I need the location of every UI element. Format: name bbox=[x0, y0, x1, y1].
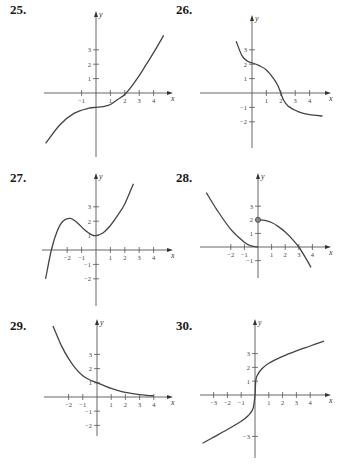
y-tick-label: 3 bbox=[250, 203, 253, 210]
y-axis-label: y bbox=[98, 10, 103, 19]
y-tick-label: 1 bbox=[244, 75, 247, 82]
y-tick-label: −3 bbox=[243, 433, 250, 440]
y-tick-label: −1 bbox=[85, 408, 92, 415]
graph-sheet: 25.xy−1123412326.xy1234−2−112327.xy−2−11… bbox=[0, 0, 344, 473]
y-arrow-icon bbox=[95, 319, 99, 325]
y-arrow-icon bbox=[94, 173, 98, 179]
x-axis-label: x bbox=[170, 94, 175, 103]
x-tick-label: 1 bbox=[109, 97, 112, 104]
x-tick-label: 3 bbox=[138, 401, 141, 408]
problem-number-27: 27. bbox=[10, 170, 26, 185]
y-axis-label: y bbox=[254, 14, 259, 23]
function-curve bbox=[46, 35, 164, 143]
x-tick-label: 3 bbox=[297, 251, 300, 258]
y-tick-label: 2 bbox=[247, 364, 250, 371]
x-tick-label: 2 bbox=[123, 254, 126, 261]
y-tick-label: 2 bbox=[244, 61, 247, 68]
y-tick-label: −1 bbox=[246, 257, 253, 264]
graph-30: 30.xy−3−2−11234−3123 bbox=[176, 318, 333, 458]
x-tick-label: −1 bbox=[238, 399, 245, 406]
y-tick-label: −1 bbox=[240, 104, 247, 111]
point-marker bbox=[255, 217, 260, 222]
x-tick-label: −2 bbox=[224, 399, 231, 406]
x-tick-label: 4 bbox=[152, 401, 156, 408]
x-axis-label: x bbox=[328, 396, 333, 405]
graph-25: 25.xy−11234123 bbox=[10, 2, 175, 157]
x-axis-label: x bbox=[328, 248, 333, 257]
x-tick-label: 3 bbox=[294, 97, 297, 104]
y-axis-label: y bbox=[260, 172, 265, 181]
y-arrow-icon bbox=[94, 11, 98, 17]
x-axis-label: x bbox=[328, 94, 333, 103]
problem-number-30: 30. bbox=[176, 318, 192, 333]
x-tick-label: 4 bbox=[311, 251, 315, 258]
x-tick-label: 1 bbox=[109, 254, 112, 261]
x-tick-label: 1 bbox=[265, 97, 268, 104]
x-tick-label: 2 bbox=[123, 97, 126, 104]
graph-26: 26.xy1234−2−1123 bbox=[176, 2, 333, 148]
y-tick-label: 1 bbox=[88, 75, 91, 82]
x-tick-label: 1 bbox=[270, 251, 273, 258]
x-tick-label: 3 bbox=[138, 97, 141, 104]
graph-28: 28.xy−2−11234−1123 bbox=[176, 170, 333, 278]
y-tick-label: −2 bbox=[84, 275, 91, 282]
x-tick-label: 2 bbox=[279, 97, 282, 104]
problem-number-28: 28. bbox=[176, 170, 192, 185]
x-tick-label: 2 bbox=[281, 399, 284, 406]
problem-number-26: 26. bbox=[176, 2, 192, 17]
x-tick-label: 3 bbox=[295, 399, 298, 406]
graph-27: 27.xy−2−11234−2−1123 bbox=[10, 170, 175, 306]
function-curve bbox=[203, 341, 324, 443]
x-tick-label: 4 bbox=[152, 97, 156, 104]
x-tick-label: 4 bbox=[309, 399, 313, 406]
y-tick-label: 3 bbox=[244, 46, 247, 53]
problem-number-25: 25. bbox=[10, 2, 26, 17]
y-tick-label: 3 bbox=[88, 46, 91, 53]
y-tick-label: 2 bbox=[88, 61, 91, 68]
y-tick-label: 1 bbox=[247, 378, 250, 385]
y-tick-label: 1 bbox=[250, 230, 253, 237]
y-arrow-icon bbox=[250, 15, 254, 21]
graph-29: 29.xy−2−11234−2−1123 bbox=[10, 318, 175, 436]
function-curve bbox=[53, 326, 154, 396]
x-tick-label: −2 bbox=[227, 251, 234, 258]
x-tick-label: 4 bbox=[308, 97, 312, 104]
x-tick-label: −2 bbox=[64, 254, 71, 261]
problem-number-29: 29. bbox=[10, 318, 26, 333]
x-tick-label: −3 bbox=[210, 399, 217, 406]
x-axis-label: x bbox=[170, 398, 175, 407]
y-tick-label: −2 bbox=[240, 118, 247, 125]
y-tick-label: −1 bbox=[84, 261, 91, 268]
x-tick-label: 3 bbox=[138, 254, 141, 261]
x-tick-label: 1 bbox=[110, 401, 113, 408]
x-tick-label: 1 bbox=[267, 399, 270, 406]
x-tick-label: −1 bbox=[78, 97, 85, 104]
y-axis-label: y bbox=[99, 318, 104, 327]
function-curve bbox=[258, 220, 311, 268]
y-arrow-icon bbox=[256, 173, 260, 179]
x-tick-label: 2 bbox=[124, 401, 127, 408]
x-axis-label: x bbox=[170, 251, 175, 260]
y-axis-label: y bbox=[98, 172, 103, 181]
x-tick-label: 2 bbox=[284, 251, 287, 258]
x-tick-label: 4 bbox=[152, 254, 156, 261]
y-arrow-icon bbox=[253, 319, 257, 325]
y-tick-label: 3 bbox=[88, 203, 91, 210]
y-tick-label: 2 bbox=[250, 216, 253, 223]
y-tick-label: 2 bbox=[88, 218, 91, 225]
y-axis-label: y bbox=[257, 318, 262, 327]
y-tick-label: 2 bbox=[89, 365, 92, 372]
y-tick-label: 3 bbox=[89, 351, 92, 358]
x-tick-label: −2 bbox=[65, 401, 72, 408]
y-tick-label: 3 bbox=[247, 350, 250, 357]
y-tick-label: −2 bbox=[85, 422, 92, 429]
